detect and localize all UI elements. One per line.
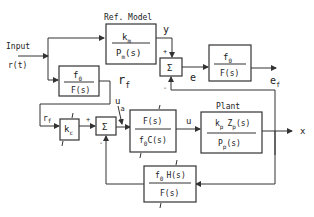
sum-symbol: Σ xyxy=(167,63,172,73)
input-signal-label: r(t) xyxy=(8,61,27,70)
plant-title: Plant xyxy=(216,102,240,111)
plus-sign: + xyxy=(86,116,90,124)
input-label: Input xyxy=(6,42,30,51)
signal-rf: rf xyxy=(118,73,130,90)
tuning-tick xyxy=(72,113,73,118)
ref-model-title: Ref. Model xyxy=(104,13,152,22)
ref-model-block xyxy=(106,24,156,64)
tuning-tick xyxy=(140,153,141,158)
minus-sign: - xyxy=(99,139,103,147)
signal-x: x xyxy=(300,126,306,136)
input-filter-den: F(s) xyxy=(71,86,90,95)
signal-y: y xyxy=(163,24,169,35)
controller-num: F(s) xyxy=(143,117,162,126)
feedback-den: F(s) xyxy=(160,189,179,198)
error-filter-den: F(s) xyxy=(220,69,239,78)
tuning-tick xyxy=(62,141,63,146)
signal-u: u xyxy=(186,116,191,126)
signal-ua: ua xyxy=(115,96,125,113)
signal-rf2: rf xyxy=(43,114,52,124)
tuning-tick xyxy=(159,105,160,109)
block-diagram: Input r(t) Ref. Model km Pm(s) y + Σ - e… xyxy=(0,0,314,217)
plus-sign: + xyxy=(163,48,167,56)
tuning-tick xyxy=(176,160,177,165)
signal-ef: ef xyxy=(270,75,280,89)
minus-sign: - xyxy=(163,84,167,92)
signal-e: e xyxy=(190,72,196,83)
tuning-tick xyxy=(160,203,161,208)
sum-symbol: Σ xyxy=(102,122,107,132)
